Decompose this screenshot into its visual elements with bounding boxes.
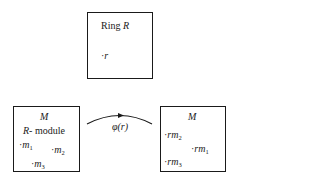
right-element-rm3: ·rm3	[164, 157, 182, 167]
right-element-rm2: ·rm2	[164, 130, 182, 140]
arrow-head-icon	[118, 113, 124, 118]
right-module-title: M	[188, 112, 196, 122]
right-module-box: M ·rm2 ·rm1 ·rm3	[160, 106, 226, 172]
right-element-rm1: ·rm1	[191, 144, 209, 154]
phi-label: φ(r)	[112, 122, 128, 132]
